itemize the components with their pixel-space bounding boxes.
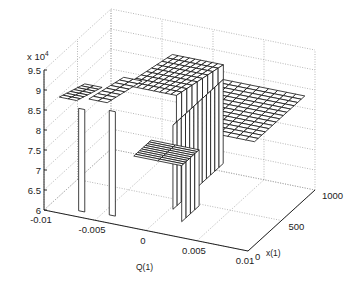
x-tick-label: 500 [289, 221, 305, 232]
q-tick-label: -0.01 [30, 214, 52, 225]
surface-mesh [59, 55, 304, 222]
x-axis-label: x(1) [266, 248, 281, 258]
z-multiplier: x 104 [27, 50, 49, 62]
z-tick-label: 9.5 [28, 65, 41, 76]
z-tick-label: 7.5 [28, 145, 41, 156]
x-tick-label: 0 [255, 251, 260, 262]
z-tick-label: 6.5 [28, 185, 41, 196]
z-tick-label: 9 [36, 85, 41, 96]
z-tick-label: 8 [36, 125, 41, 136]
q-tick-label: -0.005 [79, 224, 106, 235]
q-tick-label: 0 [140, 235, 145, 246]
z-tick-label: 8.5 [28, 105, 41, 116]
q-tick-label: 0.01 [236, 255, 255, 266]
x-tick-label: 1000 [322, 190, 343, 201]
z-tick-label: 7 [36, 165, 41, 176]
surface-plot: 66.577.588.599.5-0.01-0.00500.0050.01050… [0, 0, 357, 286]
q-axis-label: Q(1) [136, 262, 153, 272]
q-tick-label: 0.005 [182, 245, 206, 256]
